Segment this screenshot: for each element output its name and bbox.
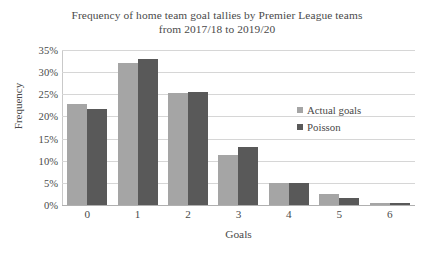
bar-poisson-1 (138, 59, 158, 205)
chart-title-line-2: from 2017/18 to 2019/20 (40, 22, 394, 36)
bar-poisson-4 (289, 183, 309, 205)
legend-label: Actual goals (307, 104, 361, 116)
bar-group (213, 50, 263, 205)
y-axis-tick-label: 15% (12, 133, 58, 144)
bar-actual-2 (168, 93, 188, 205)
chart-title: Frequency of home team goal tallies by P… (40, 8, 394, 36)
bar-actual-6 (370, 203, 390, 205)
x-axis-title: Goals (62, 228, 415, 240)
y-axis-tick-label: 10% (12, 155, 58, 166)
bar-poisson-6 (390, 203, 410, 205)
axis-baseline (62, 205, 415, 206)
bar-group (163, 50, 213, 205)
chart-legend: Actual goalsPoisson (297, 101, 397, 135)
x-axis-tick-label: 3 (213, 208, 263, 226)
bar-actual-4 (269, 183, 289, 205)
chart-container: Frequency of home team goal tallies by P… (0, 0, 434, 262)
bar-actual-3 (218, 155, 238, 205)
bar-actual-5 (319, 194, 339, 205)
bar-poisson-3 (238, 147, 258, 205)
legend-item: Actual goals (297, 101, 397, 118)
bar-poisson-5 (339, 198, 359, 205)
y-axis-tick-label: 20% (12, 111, 58, 122)
bar-actual-0 (67, 104, 87, 205)
y-axis-tick-label: 25% (12, 89, 58, 100)
bar-poisson-2 (188, 92, 208, 205)
y-axis-tick-label: 5% (12, 177, 58, 188)
bar-group (112, 50, 162, 205)
x-axis-tick-label: 2 (163, 208, 213, 226)
y-axis-tick-label: 30% (12, 67, 58, 78)
y-axis-tick-label: 0% (12, 200, 58, 211)
bar-group (62, 50, 112, 205)
legend-swatch-icon (297, 124, 303, 130)
bar-poisson-0 (87, 109, 107, 205)
legend-swatch-icon (297, 107, 303, 113)
x-axis-tick-label: 0 (62, 208, 112, 226)
chart-title-line-1: Frequency of home team goal tallies by P… (72, 9, 363, 21)
y-axis-tick-label: 35% (12, 45, 58, 56)
bar-actual-1 (118, 63, 138, 205)
x-axis-tick-label: 4 (264, 208, 314, 226)
legend-label: Poisson (307, 121, 341, 133)
x-axis-tick-label: 6 (365, 208, 415, 226)
legend-item: Poisson (297, 118, 397, 135)
x-axis-tick-label: 1 (112, 208, 162, 226)
x-axis-tick-labels: 0123456 (62, 208, 415, 226)
x-axis-tick-label: 5 (314, 208, 364, 226)
y-axis-tick-labels: 35%30%25%20%15%10%5%0% (10, 0, 58, 262)
